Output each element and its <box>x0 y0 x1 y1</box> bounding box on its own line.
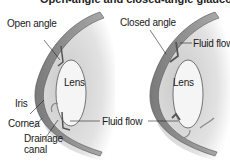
open-angle-label: Open angle <box>7 18 57 29</box>
right-lens-label: Lens <box>173 77 194 88</box>
fluid-flow-label-shared: Fluid flow <box>102 116 142 127</box>
closed-angle-label: Closed angle <box>120 17 176 28</box>
drainage-canal-label-1: Drainage <box>24 133 63 144</box>
left-lens <box>56 60 86 126</box>
right-fluid-flow-label: Fluid flow <box>193 38 230 49</box>
cornea-label: Cornea <box>8 118 40 129</box>
left-lens-label: Lens <box>64 77 85 88</box>
drainage-canal-label-2: canal <box>24 144 47 155</box>
glaucoma-diagram: Open-angle and closed-angle glaucoma <box>0 0 230 166</box>
iris-label: Iris <box>15 98 28 109</box>
